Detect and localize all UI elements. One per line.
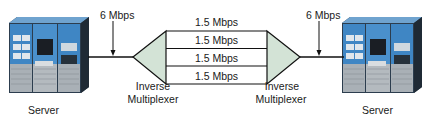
left-server-icon: [9, 17, 89, 93]
right-inverse-multiplexer-icon: [267, 31, 300, 84]
left-mux-label-line1: Inverse: [128, 81, 178, 92]
channel-rate-label: 1.5 Mbps: [166, 53, 267, 64]
channel-rate-label: 1.5 Mbps: [166, 35, 267, 46]
left-link-rate-label: 6 Mbps: [100, 10, 134, 21]
left-inverse-multiplexer-icon: [133, 31, 166, 84]
channel-rate-label: 1.5 Mbps: [166, 71, 267, 82]
right-server-icon: [342, 17, 422, 93]
right-mux-label-line2: Multiplexer: [251, 94, 311, 105]
right-rate-arrow-icon: [317, 21, 322, 56]
left-server-label: Server: [28, 105, 59, 116]
right-mux-label-line1: Inverse: [257, 81, 307, 92]
right-server-label: Server: [362, 105, 393, 116]
right-link-rate-label: 6 Mbps: [306, 10, 340, 21]
left-mux-label-line2: Multiplexer: [123, 94, 183, 105]
channel-rate-label: 1.5 Mbps: [166, 17, 267, 28]
left-rate-arrow-icon: [111, 21, 116, 56]
